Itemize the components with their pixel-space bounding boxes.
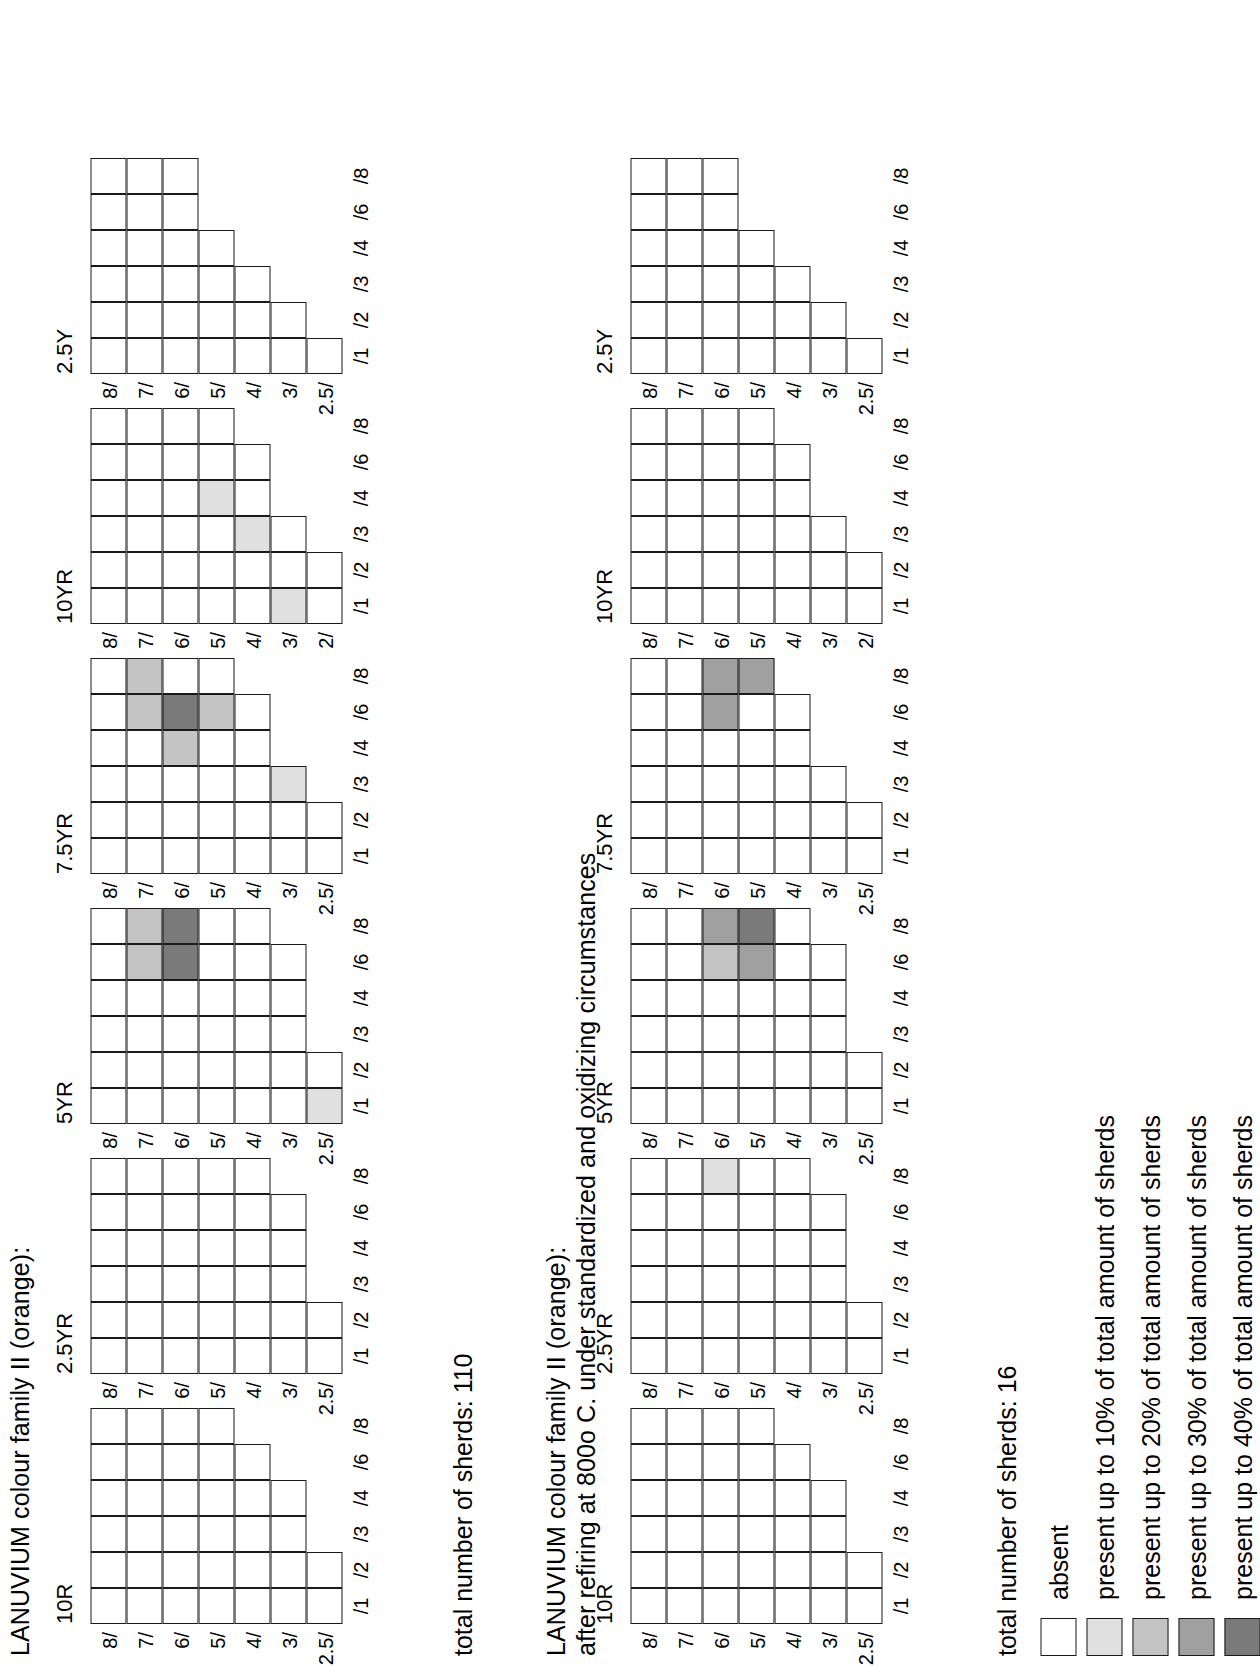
- munsell-cell: [738, 1480, 774, 1516]
- munsell-cell: [162, 444, 198, 480]
- munsell-cell: [234, 552, 270, 588]
- munsell-cell: [630, 444, 666, 480]
- munsell-cell: [234, 730, 270, 766]
- chroma-label: /6: [350, 1444, 370, 1480]
- chroma-label: /2: [350, 1552, 370, 1588]
- chroma-label: /4: [890, 230, 910, 266]
- munsell-cell: [270, 338, 306, 374]
- chroma-label: /4: [350, 1230, 370, 1266]
- munsell-cell: [810, 1088, 846, 1124]
- munsell-cell: [162, 1480, 198, 1516]
- value-label: 4/: [783, 632, 803, 666]
- legend-label: present up to 20% of total amount of she…: [1136, 1115, 1164, 1600]
- chroma-label: /3: [890, 266, 910, 302]
- munsell-cell: [306, 802, 342, 838]
- chroma-label: /4: [890, 1480, 910, 1516]
- munsell-cell: [702, 266, 738, 302]
- munsell-cell: [162, 802, 198, 838]
- hue-label: 10YR: [592, 569, 616, 624]
- munsell-cell: [630, 1194, 666, 1230]
- munsell-cell: [774, 480, 810, 516]
- hue-label: 2.5YR: [52, 1313, 76, 1374]
- munsell-cell: [738, 980, 774, 1016]
- munsell-cell: [702, 1516, 738, 1552]
- value-label: 4/: [783, 382, 803, 416]
- munsell-cell: [702, 444, 738, 480]
- munsell-cell: [774, 838, 810, 874]
- munsell-cell: [810, 980, 846, 1016]
- munsell-cell: [270, 552, 306, 588]
- munsell-cell: [90, 338, 126, 374]
- legend-label: present up to 10% of total amount of she…: [1090, 1115, 1118, 1600]
- munsell-cell: [774, 944, 810, 980]
- chroma-label: /6: [890, 694, 910, 730]
- munsell-cell: [810, 1194, 846, 1230]
- munsell-cell: [774, 1266, 810, 1302]
- munsell-cell: [270, 766, 306, 802]
- munsell-cell: [846, 1088, 882, 1124]
- value-label: 4/: [243, 1632, 263, 1666]
- munsell-cell: [702, 552, 738, 588]
- munsell-cell: [666, 480, 702, 516]
- munsell-cell: [774, 802, 810, 838]
- munsell-cell: [90, 980, 126, 1016]
- munsell-cell: [198, 266, 234, 302]
- hue-label: 5YR: [592, 1081, 616, 1124]
- value-label: 5/: [207, 882, 227, 916]
- munsell-cell: [234, 1480, 270, 1516]
- munsell-cell: [702, 1230, 738, 1266]
- chroma-label: /2: [890, 302, 910, 338]
- munsell-cell: [774, 266, 810, 302]
- munsell-cell: [630, 838, 666, 874]
- munsell-cell: [846, 1552, 882, 1588]
- munsell-cell: [702, 338, 738, 374]
- munsell-cell: [666, 266, 702, 302]
- munsell-cell: [306, 1338, 342, 1374]
- munsell-cell: [738, 838, 774, 874]
- munsell-cell: [90, 588, 126, 624]
- munsell-cell: [198, 944, 234, 980]
- munsell-cell: [90, 480, 126, 516]
- munsell-cell: [90, 1302, 126, 1338]
- munsell-cell: [846, 338, 882, 374]
- munsell-cell: [702, 1302, 738, 1338]
- munsell-cell: [630, 266, 666, 302]
- chroma-label: /3: [890, 1516, 910, 1552]
- figure-original: LANUVIUM colour family II (orange): tota…: [0, 0, 520, 1664]
- munsell-cell: [234, 944, 270, 980]
- munsell-cell: [234, 1444, 270, 1480]
- munsell-cell: [234, 1552, 270, 1588]
- munsell-cell: [666, 1266, 702, 1302]
- munsell-cell: [306, 838, 342, 874]
- munsell-cell: [162, 1302, 198, 1338]
- munsell-cell: [162, 1552, 198, 1588]
- value-label: 8/: [99, 382, 119, 416]
- munsell-cell: [270, 1016, 306, 1052]
- munsell-cell: [306, 1552, 342, 1588]
- hue-label: 10R: [52, 1584, 76, 1624]
- value-label: 3/: [279, 1632, 299, 1666]
- munsell-cell: [126, 944, 162, 980]
- value-label: 4/: [783, 882, 803, 916]
- munsell-cell: [846, 802, 882, 838]
- chroma-label: /1: [350, 338, 370, 374]
- munsell-cell: [702, 730, 738, 766]
- munsell-cell: [666, 1338, 702, 1374]
- legend-item: present up to 40% of total amount of she…: [1224, 1115, 1260, 1656]
- value-label: 8/: [99, 632, 119, 666]
- chroma-label: /2: [890, 552, 910, 588]
- munsell-cell: [630, 1588, 666, 1624]
- munsell-cell: [90, 802, 126, 838]
- chroma-label: /4: [890, 980, 910, 1016]
- value-label: 2/: [315, 632, 335, 666]
- munsell-cell: [666, 1480, 702, 1516]
- munsell-cell: [630, 338, 666, 374]
- chroma-label: /8: [890, 1158, 910, 1194]
- munsell-cell: [198, 552, 234, 588]
- munsell-cell: [810, 1480, 846, 1516]
- value-label: 3/: [819, 1382, 839, 1416]
- legend-label: present up to 40% of total amount of she…: [1228, 1115, 1256, 1600]
- value-label: 2/: [855, 632, 875, 666]
- munsell-cell: [126, 302, 162, 338]
- munsell-cell: [666, 552, 702, 588]
